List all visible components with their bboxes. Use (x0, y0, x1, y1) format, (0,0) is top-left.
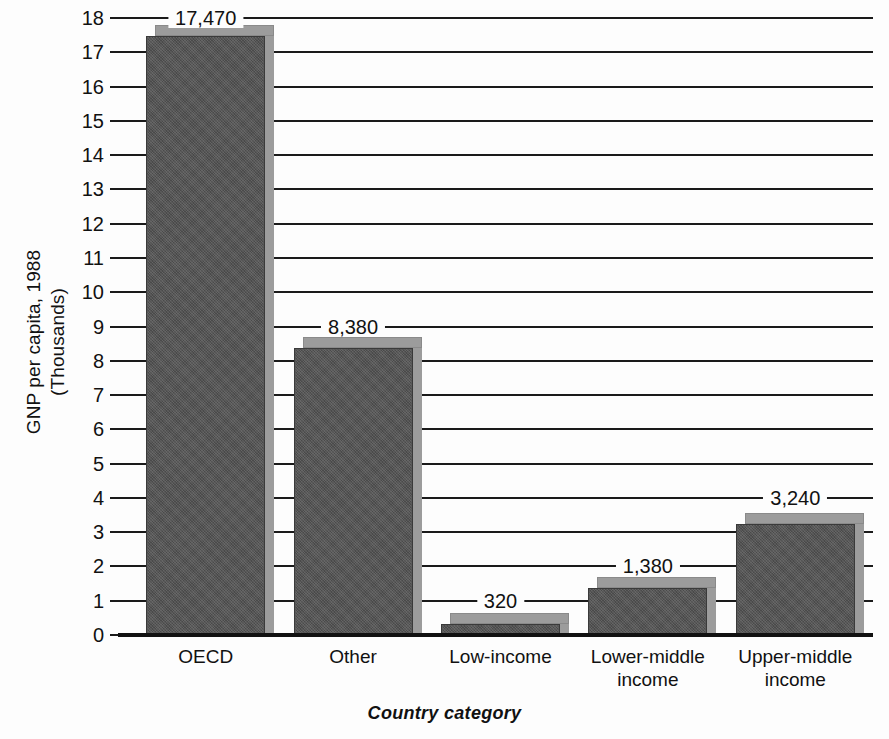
y-axis-tick-mark (110, 600, 137, 602)
y-axis-tick-mark (110, 223, 137, 225)
bar-side-face (265, 25, 274, 635)
bar-side-face (855, 513, 864, 635)
bar-value-label: 1,380 (616, 556, 680, 576)
x-axis-tick-label: OECD (132, 645, 279, 668)
bar (588, 577, 707, 635)
plot-area: 17,4708,3803201,3803,240 (136, 18, 873, 635)
bar-side-face (413, 337, 422, 635)
y-axis-tick-mark (110, 394, 137, 396)
bar (736, 513, 855, 635)
y-axis-tick-mark (110, 51, 137, 53)
bar (441, 613, 560, 635)
bar-value-label: 320 (477, 591, 524, 611)
bar (146, 25, 265, 635)
bar-front-face (736, 524, 855, 635)
gridline (136, 17, 873, 19)
y-axis-tick-mark (110, 17, 137, 19)
x-axis-tick-label-line: income (574, 668, 721, 691)
x-axis-tick-label-line: income (722, 668, 869, 691)
y-axis-tick-mark (110, 531, 137, 533)
bar-top-face (597, 577, 716, 588)
y-axis-tick-mark (110, 497, 137, 499)
x-axis-tick-label-line: Lower-middle (574, 645, 721, 668)
x-axis-title: Country category (0, 703, 889, 724)
y-axis-tick-mark (110, 326, 137, 328)
x-axis-tick-label: Low-income (427, 645, 574, 668)
x-axis-line (118, 633, 873, 637)
bar-top-face (745, 513, 864, 524)
y-axis-tick-mark (110, 154, 137, 156)
x-axis-tick-label-line: Upper-middle (722, 645, 869, 668)
y-axis-tick-mark (110, 428, 137, 430)
y-axis-tick-mark (110, 291, 137, 293)
y-axis-tick-mark (110, 360, 137, 362)
bar-front-face (294, 348, 413, 635)
bar-front-face (588, 588, 707, 635)
y-axis-tick-mark (110, 120, 137, 122)
bar-value-label: 17,470 (168, 8, 243, 28)
y-axis-tick-mark (110, 188, 137, 190)
bar-front-face (146, 36, 265, 635)
x-axis-tick-label-line: OECD (132, 645, 279, 668)
bar-top-face (303, 337, 422, 348)
y-axis-tick-mark (110, 86, 137, 88)
x-axis-tick-label: Other (279, 645, 426, 668)
bar-value-label: 8,380 (321, 317, 385, 337)
x-axis-tick-label: Upper-middleincome (722, 645, 869, 691)
bar (294, 337, 413, 635)
x-axis-tick-label: Lower-middleincome (574, 645, 721, 691)
y-axis-tick-mark (110, 463, 137, 465)
x-axis-tick-label-line: Other (279, 645, 426, 668)
bar-top-face (450, 613, 569, 624)
bar-value-label: 3,240 (763, 488, 827, 508)
bar-chart: GNP per capita, 1988 (Thousands) 1817161… (0, 0, 889, 739)
y-axis-tick-mark (110, 565, 137, 567)
x-axis-tick-labels: OECDOtherLow-incomeLower-middleincomeUpp… (0, 645, 889, 705)
y-axis-tick-mark (110, 257, 137, 259)
x-axis-tick-label-line: Low-income (427, 645, 574, 668)
